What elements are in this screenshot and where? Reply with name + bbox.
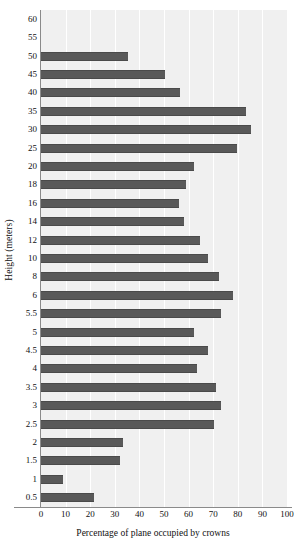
- bar[interactable]: [41, 217, 184, 226]
- bar-row[interactable]: [41, 249, 287, 267]
- bar-row[interactable]: [41, 341, 287, 359]
- bar[interactable]: [41, 475, 63, 484]
- y-tick-label: 4.5: [14, 341, 40, 359]
- bar[interactable]: [41, 254, 208, 263]
- bar[interactable]: [41, 125, 251, 134]
- y-tick-label: 8: [14, 268, 40, 286]
- y-tick-label: 2.5: [14, 415, 40, 433]
- bar-row[interactable]: [41, 120, 287, 138]
- y-tick-label: 0.5: [14, 489, 40, 507]
- y-tick-label: 18: [14, 176, 40, 194]
- bar[interactable]: [41, 438, 123, 447]
- y-tick-label: 55: [14, 28, 40, 46]
- y-tick-label: 50: [14, 47, 40, 65]
- bar-row[interactable]: [41, 305, 287, 323]
- y-axis-title-text: Height (meters): [4, 219, 14, 280]
- y-axis-tick-labels: 6055504540353025201816141210865.554.543.…: [14, 10, 40, 507]
- x-tick-label: 60: [184, 510, 193, 519]
- y-tick-label: 2: [14, 433, 40, 451]
- bar-row[interactable]: [41, 470, 287, 488]
- bar[interactable]: [41, 272, 219, 281]
- x-tick-label: 100: [280, 510, 294, 519]
- y-tick-label: 35: [14, 102, 40, 120]
- bar[interactable]: [41, 88, 180, 97]
- bar[interactable]: [41, 493, 94, 502]
- bar-row[interactable]: [41, 10, 287, 28]
- bar[interactable]: [41, 456, 120, 465]
- x-tick-label: 10: [61, 510, 70, 519]
- y-tick-label: 30: [14, 120, 40, 138]
- bar[interactable]: [41, 199, 179, 208]
- bar-row[interactable]: [41, 102, 287, 120]
- x-tick-label: 30: [110, 510, 119, 519]
- y-tick-label: 1.5: [14, 452, 40, 470]
- bar[interactable]: [41, 309, 221, 318]
- x-tick-label: 50: [160, 510, 169, 519]
- bar-row[interactable]: [41, 489, 287, 507]
- y-tick-label: 5: [14, 323, 40, 341]
- bar-series: [41, 10, 287, 507]
- bar-row[interactable]: [41, 323, 287, 341]
- y-tick-label: 6: [14, 286, 40, 304]
- bar[interactable]: [41, 107, 246, 116]
- bar-row[interactable]: [41, 176, 287, 194]
- y-tick-label: 12: [14, 231, 40, 249]
- x-tick-label: 70: [209, 510, 218, 519]
- y-tick-label: 16: [14, 194, 40, 212]
- y-tick-label: 10: [14, 249, 40, 267]
- bar-row[interactable]: [41, 157, 287, 175]
- y-tick-label: 5.5: [14, 305, 40, 323]
- bar-row[interactable]: [41, 360, 287, 378]
- bar[interactable]: [41, 420, 214, 429]
- y-tick-label: 1: [14, 470, 40, 488]
- x-axis-tick-labels: 0102030405060708090100: [41, 510, 287, 524]
- bar-row[interactable]: [41, 397, 287, 415]
- y-tick-label: 40: [14, 84, 40, 102]
- bar[interactable]: [41, 383, 216, 392]
- bar-row[interactable]: [41, 286, 287, 304]
- x-tick-label: 90: [258, 510, 267, 519]
- bar[interactable]: [41, 70, 165, 79]
- x-axis-line: [14, 507, 292, 508]
- bar-row[interactable]: [41, 194, 287, 212]
- bar[interactable]: [41, 401, 221, 410]
- bar-row[interactable]: [41, 139, 287, 157]
- crown-cover-bar-chart: Height (meters) 605550454035302520181614…: [0, 0, 306, 549]
- y-axis-line: [40, 10, 41, 507]
- y-tick-label: 4: [14, 360, 40, 378]
- x-tick-label: 40: [135, 510, 144, 519]
- bar-row[interactable]: [41, 47, 287, 65]
- bar[interactable]: [41, 52, 128, 61]
- bar-row[interactable]: [41, 452, 287, 470]
- bar[interactable]: [41, 346, 208, 355]
- bar-row[interactable]: [41, 84, 287, 102]
- bar-row[interactable]: [41, 433, 287, 451]
- y-tick-label: 3.5: [14, 378, 40, 396]
- plot-area: [41, 10, 287, 507]
- y-tick-label: 60: [14, 10, 40, 28]
- bar-row[interactable]: [41, 65, 287, 83]
- x-tick-label: 80: [233, 510, 242, 519]
- bar-row[interactable]: [41, 212, 287, 230]
- x-tick-label: 0: [39, 510, 44, 519]
- bar[interactable]: [41, 291, 233, 300]
- y-tick-label: 3: [14, 397, 40, 415]
- y-tick-label: 45: [14, 65, 40, 83]
- gridline: [287, 10, 288, 507]
- bar-row[interactable]: [41, 415, 287, 433]
- bar[interactable]: [41, 144, 237, 153]
- y-tick-label: 14: [14, 212, 40, 230]
- y-tick-label: 25: [14, 139, 40, 157]
- bar-row[interactable]: [41, 231, 287, 249]
- x-tick-label: 20: [86, 510, 95, 519]
- y-tick-label: 20: [14, 157, 40, 175]
- bar[interactable]: [41, 162, 194, 171]
- bar[interactable]: [41, 236, 200, 245]
- bar-row[interactable]: [41, 28, 287, 46]
- bar[interactable]: [41, 328, 194, 337]
- bar-row[interactable]: [41, 268, 287, 286]
- bar[interactable]: [41, 364, 197, 373]
- bar-row[interactable]: [41, 378, 287, 396]
- x-axis-title: Percentage of plane occupied by crowns: [0, 528, 306, 538]
- bar[interactable]: [41, 180, 186, 189]
